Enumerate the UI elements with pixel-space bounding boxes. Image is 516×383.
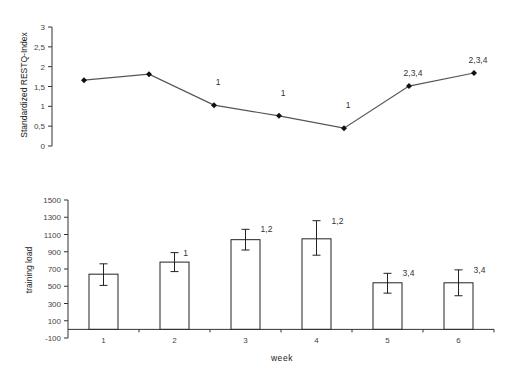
restq-point — [341, 125, 347, 131]
restq-point — [146, 71, 152, 77]
training-load-bar-chart: training load week -10010030050070090011… — [24, 196, 494, 363]
bottom-y-ticks: -100100300500700900110013001500 — [43, 196, 68, 343]
bottom-x-tick-label: 1 — [101, 336, 106, 345]
bottom-y-tick-label: 100 — [48, 317, 62, 326]
bottom-y-tick-label: 900 — [48, 248, 62, 257]
top-y-tick-label: 2,5 — [34, 43, 46, 52]
restq-point — [471, 70, 477, 76]
restq-point — [81, 77, 87, 83]
top-y-axis-title: Standardized RESTQ-Index — [19, 32, 29, 138]
top-y-tick-label: 1 — [41, 102, 46, 111]
bar-annotation: 3,4 — [474, 265, 486, 275]
top-y-tick-label: 0 — [41, 142, 46, 151]
top-y-tick-label: 3 — [41, 23, 46, 32]
restq-point — [276, 113, 282, 119]
bars: 11,21,23,43,4 — [89, 216, 486, 330]
bottom-y-tick-label: 700 — [48, 265, 62, 274]
top-y-tick-label: 1,5 — [34, 83, 46, 92]
bar-annotation: 1,2 — [261, 224, 273, 234]
top-y-tick-label: 2 — [41, 63, 46, 72]
restq-point-annotation: 2,3,4 — [404, 68, 423, 78]
bottom-x-axis-title: week — [270, 353, 293, 363]
figure: Standardized RESTQ-Index 00,511,522,53 1… — [0, 0, 516, 383]
restq-series-line — [84, 73, 474, 128]
top-y-tick-label: 0,5 — [34, 122, 46, 131]
bottom-x-tick-label: 3 — [243, 336, 248, 345]
bottom-x-tick-label: 4 — [314, 336, 319, 345]
restq-point-annotation: 1 — [346, 100, 351, 110]
restq-point — [406, 83, 412, 89]
bottom-x-tick-label: 5 — [385, 336, 390, 345]
restq-line-chart: Standardized RESTQ-Index 00,511,522,53 1… — [19, 23, 488, 151]
restq-point — [211, 102, 217, 108]
restq-points: 1112,3,42,3,4 — [81, 55, 488, 131]
top-y-ticks: 00,511,522,53 — [34, 23, 52, 151]
bar-annotation: 1,2 — [332, 216, 344, 226]
bar-annotation: 1 — [183, 248, 188, 258]
bottom-x-ticks: 123456 — [101, 329, 494, 345]
bottom-x-tick-label: 2 — [172, 336, 177, 345]
bar — [160, 262, 189, 329]
restq-point-annotation: 2,3,4 — [469, 55, 488, 65]
bar-annotation: 3,4 — [403, 268, 415, 278]
restq-point-annotation: 1 — [216, 77, 221, 87]
restq-point-annotation: 1 — [281, 88, 286, 98]
bottom-x-tick-label: 6 — [456, 336, 461, 345]
bottom-y-axis-title: training load — [24, 247, 34, 294]
bottom-y-tick-label: -100 — [45, 334, 62, 343]
bar — [231, 240, 260, 330]
bottom-y-tick-label: 1100 — [44, 231, 62, 240]
bottom-y-tick-label: 1300 — [43, 213, 61, 222]
bottom-y-tick-label: 1500 — [43, 196, 61, 205]
bottom-y-tick-label: 500 — [48, 282, 62, 291]
bottom-y-tick-label: 300 — [48, 300, 62, 309]
